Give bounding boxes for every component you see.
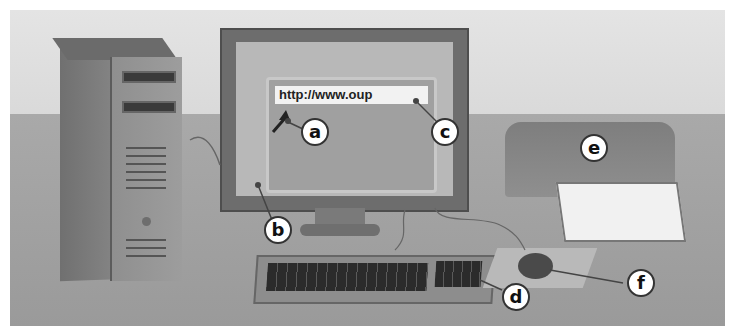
pointer-dot (285, 118, 291, 124)
label-d: d (502, 283, 530, 311)
keyboard-keys (266, 263, 428, 291)
system-unit-front (110, 57, 182, 281)
vent (126, 179, 166, 181)
drive-slot (122, 71, 176, 83)
label-a: a (301, 118, 329, 146)
keyboard (253, 255, 495, 304)
vent (126, 247, 166, 249)
power-button (142, 217, 151, 226)
label-e: e (580, 134, 608, 162)
vent (126, 155, 166, 157)
vent (126, 239, 166, 241)
label-b: b (264, 216, 292, 244)
screen-dot (255, 182, 261, 188)
vent (126, 147, 166, 149)
vent (126, 171, 166, 173)
illustration-scene: http://www.oup (10, 10, 725, 326)
drive-slot (122, 101, 176, 113)
monitor-base (300, 224, 380, 236)
mouse (518, 253, 553, 279)
vent (126, 255, 166, 257)
label-c: c (431, 118, 459, 146)
keyboard-numpad (434, 261, 482, 287)
address-bar-dot (413, 98, 419, 104)
monitor-screen: http://www.oup (236, 42, 453, 196)
browser-window: http://www.oup (266, 77, 437, 193)
vent (126, 187, 166, 189)
printer-paper (556, 182, 686, 242)
address-bar: http://www.oup (275, 86, 428, 104)
vent (126, 163, 166, 165)
label-f: f (627, 269, 655, 297)
